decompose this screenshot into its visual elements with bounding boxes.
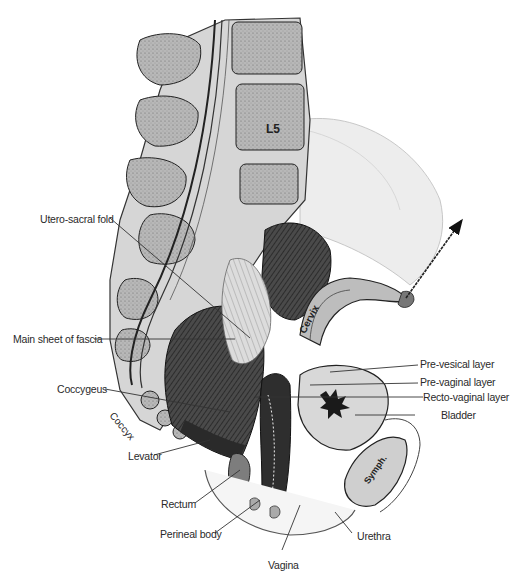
label-rectum: Rectum <box>161 498 196 510</box>
label-coccygeus: Coccygeus <box>57 383 107 395</box>
label-pre-vaginal-layer: Pre-vaginal layer <box>420 376 495 388</box>
label-bladder: Bladder <box>441 409 476 421</box>
bladder <box>298 365 388 450</box>
vertebra-label-l5: L5 <box>266 122 280 136</box>
label-recto-vaginal-layer: Recto-vaginal layer <box>423 391 509 403</box>
pelvis-drawing <box>0 0 512 580</box>
label-perineal-body: Perineal body <box>160 528 222 540</box>
label-levator: Levator <box>128 450 162 462</box>
pelvis-illustration: L5 Cervix Coccyx Symph. Utero-sacral fol… <box>0 0 512 580</box>
label-utero-sacral-fold: Utero-sacral fold <box>40 213 114 225</box>
label-pre-vesical-layer: Pre-vesical layer <box>420 358 494 370</box>
vertebra-l5 <box>236 84 304 150</box>
leader-levator <box>154 440 210 455</box>
label-urethra: Urethra <box>357 530 391 542</box>
label-vagina: Vagina <box>268 559 299 571</box>
label-main-sheet-of-fascia: Main sheet of fascia <box>13 333 102 345</box>
